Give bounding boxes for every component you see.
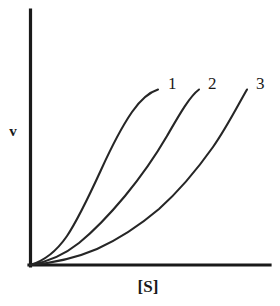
sigmoidal-kinetics-plot: v [S] 1 2 3 [0, 0, 280, 306]
curve-label-3: 3 [256, 74, 265, 93]
y-axis-label: v [9, 123, 17, 139]
chart-figure: v [S] 1 2 3 [0, 0, 280, 306]
curve-label-2: 2 [208, 74, 217, 93]
curve-2-path [30, 90, 199, 266]
curve-label-1: 1 [168, 74, 177, 93]
x-axis-label: [S] [138, 277, 159, 296]
